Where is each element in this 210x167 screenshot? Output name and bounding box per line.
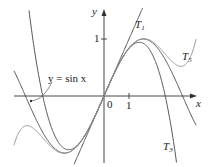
y-tick-label-1: 1	[94, 33, 100, 44]
t1-subscript: 1	[141, 24, 145, 32]
x-tick-label-1: 1	[126, 100, 132, 111]
t3-label: T3	[163, 141, 173, 154]
taylor-polynomial-figure: y x 0 1 1 y = sin x T1 T5 T3	[0, 0, 210, 167]
origin-label: 0	[107, 99, 113, 110]
x-axis-label: x	[196, 98, 201, 109]
t3-subscript: 3	[169, 146, 173, 154]
curve-t3	[29, 11, 177, 163]
y-axis-arrow-icon	[102, 9, 107, 16]
t5-label: T5	[182, 51, 192, 64]
sin-curve-label: y = sin x	[48, 73, 86, 84]
plot-area	[0, 0, 210, 167]
t5-subscript: 5	[188, 56, 192, 64]
leader-dot-icon	[30, 100, 32, 102]
axes	[14, 9, 197, 163]
t1-label: T1	[135, 19, 145, 32]
y-axis-label: y	[92, 6, 97, 17]
